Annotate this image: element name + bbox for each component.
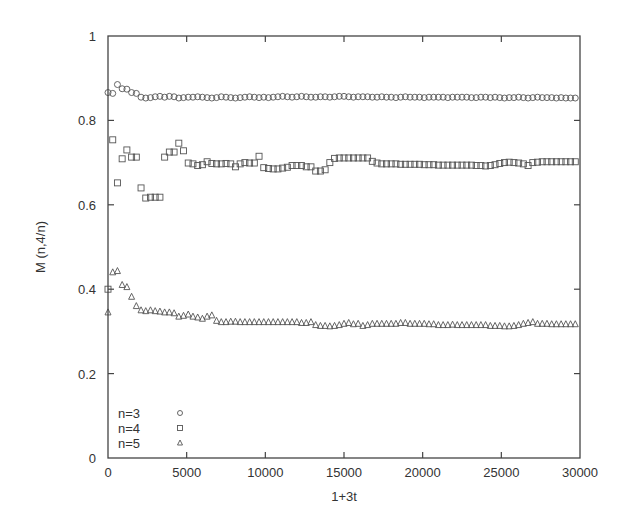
data-point-square — [114, 180, 120, 186]
data-point-triangle — [133, 303, 139, 309]
legend-marker-triangle — [178, 440, 183, 445]
data-point-square — [181, 148, 187, 154]
x-tick-label: 5000 — [172, 465, 201, 480]
y-axis-label: M (n,4/n) — [33, 221, 48, 273]
series-n-4 — [105, 137, 578, 292]
legend: n=3n=4n=5 — [118, 406, 183, 451]
data-point-square — [110, 137, 116, 143]
data-point-triangle — [308, 319, 314, 325]
y-tick-label: 1 — [89, 29, 96, 44]
series-n-3 — [105, 82, 578, 102]
y-tick-label: 0.2 — [78, 367, 96, 382]
x-tick-label: 30000 — [562, 465, 598, 480]
data-point-triangle — [209, 312, 215, 318]
data-point-triangle — [171, 310, 177, 316]
y-tick-label: 0 — [89, 451, 96, 466]
data-point-triangle — [129, 293, 135, 299]
data-point-triangle — [119, 281, 125, 287]
data-point-triangle — [530, 319, 536, 325]
legend-marker-circle — [178, 411, 183, 416]
y-tick-label: 0.6 — [78, 198, 96, 213]
data-point-square — [119, 156, 125, 162]
data-point-triangle — [114, 268, 120, 274]
data-point-triangle — [572, 321, 578, 327]
x-tick-label: 15000 — [326, 465, 362, 480]
legend-label: n=3 — [118, 406, 140, 421]
legend-label: n=5 — [118, 436, 140, 451]
data-markers — [105, 82, 578, 329]
data-point-square — [256, 153, 262, 159]
data-point-triangle — [195, 314, 201, 320]
x-tick-label: 20000 — [405, 465, 441, 480]
data-point-square — [138, 185, 144, 191]
y-tick-label: 0.4 — [78, 282, 96, 297]
x-tick-label: 10000 — [247, 465, 283, 480]
data-point-square — [176, 140, 182, 146]
series-n-5 — [105, 268, 578, 329]
chart: 05000100001500020000250003000000.20.40.6… — [0, 0, 636, 530]
x-tick-label: 25000 — [483, 465, 519, 480]
x-tick-label: 0 — [104, 465, 111, 480]
data-point-triangle — [355, 320, 361, 326]
data-point-square — [124, 147, 130, 153]
x-axis-label: 1+3t — [331, 489, 357, 504]
y-tick-label: 0.8 — [78, 113, 96, 128]
data-point-triangle — [185, 311, 191, 317]
legend-marker-square — [178, 426, 183, 431]
legend-label: n=4 — [118, 421, 140, 436]
data-point-triangle — [346, 319, 352, 325]
